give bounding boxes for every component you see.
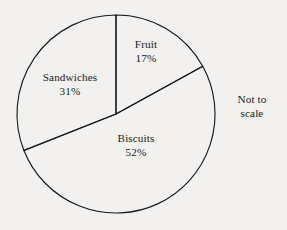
not-to-scale-line1: Not to <box>238 92 267 106</box>
chart-canvas: Fruit 17% Biscuits 52% Sandwiches 31% No… <box>0 0 287 230</box>
pie-label-fruit-value: 17% <box>135 52 157 66</box>
pie-label-fruit: Fruit 17% <box>135 38 157 65</box>
not-to-scale-annotation: Not to scale <box>238 92 267 121</box>
pie-label-biscuits: Biscuits 52% <box>118 132 155 159</box>
pie-label-sandwiches: Sandwiches 31% <box>43 71 97 98</box>
not-to-scale-line2: scale <box>238 106 267 120</box>
pie-label-biscuits-value: 52% <box>118 146 155 160</box>
pie-label-fruit-name: Fruit <box>135 38 157 52</box>
pie-slices <box>17 15 215 213</box>
pie-label-sandwiches-name: Sandwiches <box>43 71 97 85</box>
pie-slice-fruit <box>116 15 203 114</box>
pie-label-sandwiches-value: 31% <box>43 85 97 99</box>
pie-label-biscuits-name: Biscuits <box>118 132 155 146</box>
